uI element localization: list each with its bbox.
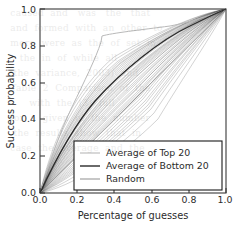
legend-label-random: Random <box>106 173 145 184</box>
y-axis-label: Success probability <box>5 53 16 148</box>
y-tick-label-0: 0.0 <box>21 187 36 198</box>
y-tick-label-4: 0.8 <box>21 40 36 51</box>
legend-label-average-bottom-20: Average of Bottom 20 <box>106 160 209 171</box>
x-tick-label-3: 0.6 <box>145 194 160 205</box>
chart-legend: Average of Top 20 Average of Bottom 20 R… <box>74 141 222 190</box>
roc-chart-svg: 0.0 0.2 0.4 0.6 0.8 1.0 0.0 0.2 0.4 0.6 … <box>0 0 241 228</box>
y-tick-label-1: 0.2 <box>21 150 36 161</box>
y-tick-label-5: 1.0 <box>21 4 36 15</box>
chart-figure: caused and was the that and formed with … <box>0 0 241 228</box>
y-tick-label-2: 0.4 <box>21 113 36 124</box>
x-tick-label-5: 1.0 <box>218 194 233 205</box>
x-tick-label-4: 0.8 <box>182 194 197 205</box>
x-tick-label-2: 0.4 <box>107 194 122 205</box>
x-tick-label-1: 0.2 <box>70 194 85 205</box>
legend-label-average-top-20: Average of Top 20 <box>106 147 190 158</box>
x-axis-label: Percentage of guesses <box>78 210 189 221</box>
y-tick-label-3: 0.6 <box>21 77 36 88</box>
